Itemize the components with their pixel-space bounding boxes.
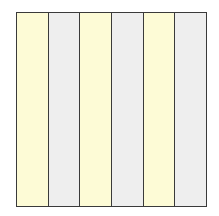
stripe-1 (17, 13, 49, 206)
stripe-4 (112, 13, 144, 206)
stripe-3 (80, 13, 112, 206)
stripe-6 (175, 13, 206, 206)
stripe-5 (144, 13, 176, 206)
striped-square (16, 12, 207, 207)
stripe-2 (49, 13, 81, 206)
